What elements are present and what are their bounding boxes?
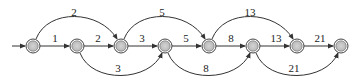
state-node-8 <box>334 39 348 53</box>
state-node-1 <box>26 39 40 53</box>
state-node-7 <box>290 39 304 53</box>
straight-edge-labels: 1 2 3 5 8 13 21 <box>52 32 325 44</box>
state-node-6 <box>246 39 260 53</box>
edge-label: 5 <box>183 32 189 44</box>
arc-label: 5 <box>159 6 165 18</box>
arc-label: 3 <box>115 62 121 74</box>
edge-label: 1 <box>52 32 58 44</box>
fibonacci-state-graph: 1 2 3 5 8 13 21 2 5 13 3 8 21 <box>0 0 361 84</box>
state-node-3 <box>114 39 128 53</box>
edge-label: 3 <box>139 32 145 44</box>
lower-arc-labels: 3 8 21 <box>115 62 299 74</box>
edge-label: 21 <box>315 32 326 44</box>
edge-label: 8 <box>228 32 234 44</box>
arc-label: 13 <box>245 6 257 18</box>
arc-label: 2 <box>71 6 77 18</box>
upper-arc-labels: 2 5 13 <box>71 6 256 18</box>
edge-label: 13 <box>271 32 283 44</box>
arc-label: 8 <box>203 62 209 74</box>
edge-label: 2 <box>95 32 101 44</box>
arc-2-4 <box>80 53 162 76</box>
state-node-5 <box>202 39 216 53</box>
state-node-4 <box>158 39 172 53</box>
upper-arcs <box>36 16 293 39</box>
arc-1-3 <box>36 16 117 39</box>
arc-4-6 <box>168 53 250 76</box>
arc-3-5 <box>124 16 205 39</box>
state-node-2 <box>70 39 84 53</box>
arc-label: 21 <box>289 62 300 74</box>
